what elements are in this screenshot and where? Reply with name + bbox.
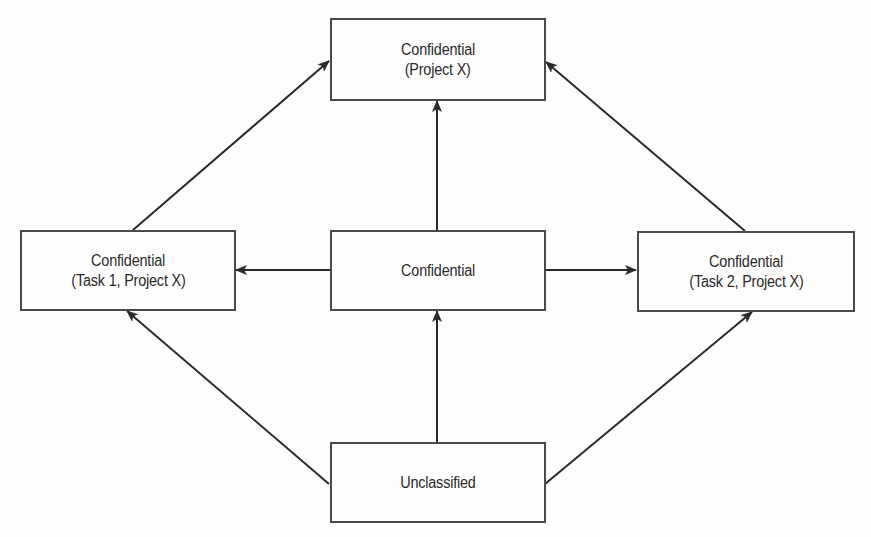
edge-unclassified-to-task2 [545, 312, 752, 484]
node-label-line2: (Task 1, Project X) [71, 271, 185, 291]
node-unclassified: Unclassified [330, 442, 546, 523]
node-label-line1: Confidential [91, 251, 165, 271]
node-confidential-task2: Confidential (Task 2, Project X) [637, 231, 855, 312]
edge-task2-to-projectx [546, 62, 745, 231]
node-label-line1: Unclassified [400, 473, 475, 493]
node-label-line2: (Project X) [405, 60, 471, 80]
node-label-line1: Confidential [709, 252, 783, 272]
edge-unclassified-to-task1 [127, 311, 329, 484]
node-confidential-project-x: Confidential (Project X) [330, 18, 546, 101]
node-label-line1: Confidential [401, 40, 475, 60]
node-label-line2: (Task 2, Project X) [689, 272, 803, 292]
edge-task1-to-projectx [133, 61, 329, 230]
node-confidential: Confidential [330, 230, 546, 311]
node-confidential-task1: Confidential (Task 1, Project X) [20, 230, 236, 311]
node-label-line1: Confidential [401, 261, 475, 281]
